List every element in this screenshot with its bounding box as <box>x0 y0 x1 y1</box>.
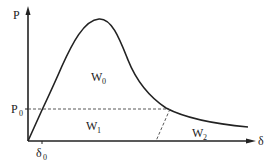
delta0-label: δ 0 <box>36 146 47 162</box>
load-curve <box>28 19 248 141</box>
w0-label: W 0 <box>91 70 106 86</box>
p0-label: P 0 <box>11 102 23 118</box>
svg-text:P: P <box>11 102 18 116</box>
load-displacement-diagram: P δ P 0 δ 0 W 0 W 1 W 2 <box>0 0 278 164</box>
w2-label: W 2 <box>192 126 207 142</box>
w1-label: W 1 <box>86 119 101 135</box>
y-axis-arrow-icon <box>26 6 31 15</box>
y-axis <box>26 6 31 141</box>
svg-text:0: 0 <box>43 153 47 162</box>
svg-text:δ: δ <box>36 146 42 160</box>
svg-text:0: 0 <box>19 109 23 118</box>
y-axis-label: P <box>13 8 20 22</box>
svg-text:2: 2 <box>203 133 207 142</box>
svg-text:1: 1 <box>97 126 101 135</box>
x-axis-label: δ <box>258 134 264 148</box>
x-axis <box>28 139 256 144</box>
x-axis-arrow-icon <box>246 139 256 144</box>
svg-text:0: 0 <box>102 77 106 86</box>
unloading-dashed-line <box>156 109 170 141</box>
